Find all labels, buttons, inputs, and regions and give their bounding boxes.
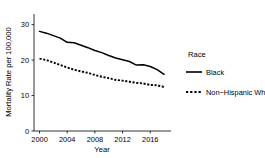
x-axis-ticks: 20002004200820122016 <box>31 131 158 144</box>
y-tick-label: 20 <box>21 56 29 65</box>
y-tick-label: 0 <box>25 127 29 136</box>
x-tick-label: 2004 <box>59 135 75 144</box>
x-axis-title: Year <box>94 145 110 154</box>
legend-label: Non−Hispanic White <box>206 88 265 97</box>
chart-legend: Race BlackNon−Hispanic White <box>186 50 265 97</box>
x-tick-label: 2000 <box>31 135 47 144</box>
legend-label: Black <box>206 68 224 77</box>
x-tick-label: 2008 <box>87 135 103 144</box>
x-tick-label: 2012 <box>114 135 130 144</box>
line-chart-plot: 0102030 20002004200820122016 Year Mortal… <box>0 0 265 158</box>
y-axis-title: Mortality Rate per 100,000 <box>4 27 13 117</box>
plot-panel <box>34 14 171 131</box>
y-tick-label: 10 <box>21 91 29 100</box>
y-tick-label: 30 <box>21 20 29 29</box>
y-axis-ticks: 0102030 <box>21 20 34 135</box>
legend-title: Race <box>188 50 206 59</box>
x-tick-label: 2016 <box>142 135 158 144</box>
chart-figure: 0102030 20002004200820122016 Year Mortal… <box>0 0 265 158</box>
